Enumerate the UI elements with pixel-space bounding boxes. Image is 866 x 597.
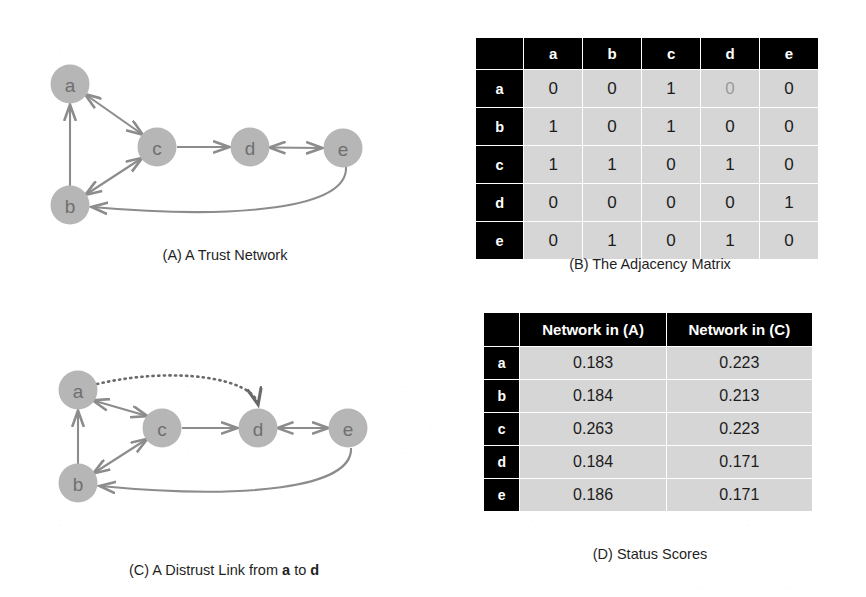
- edge-a-c: [94, 401, 148, 417]
- matrix-cell-e-b: 1: [583, 222, 642, 260]
- scores-corner-cell: [484, 313, 520, 347]
- matrix-row-header-e: e: [476, 222, 524, 260]
- scores-col-header-network-a: Network in (A): [520, 313, 666, 347]
- node-a: a: [51, 65, 90, 104]
- edge-e-to-b: [100, 448, 351, 492]
- matrix-cell-d-c: 0: [642, 184, 701, 222]
- matrix-cell-a-a: 0: [524, 70, 583, 108]
- table-header-row: Network in (A) Network in (C): [484, 313, 813, 347]
- table-row: d 0.184 0.171: [484, 446, 813, 479]
- scores-row-header-b: b: [484, 380, 520, 413]
- caption-distrust-network: (C) A Distrust Link from a to d: [40, 546, 400, 578]
- status-scores-head: Network in (A) Network in (C): [484, 313, 813, 347]
- scores-row-header-d: d: [484, 446, 520, 479]
- table-row: c 1 1 0 1 0: [476, 146, 819, 184]
- scores-row-header-e: e: [484, 479, 520, 512]
- matrix-cell-b-e: 0: [759, 108, 818, 146]
- scores-row-header-c: c: [484, 413, 520, 446]
- matrix-row-header-d: d: [476, 184, 524, 222]
- caption-c-from-node: a: [282, 562, 290, 578]
- scores-row-header-a: a: [484, 347, 520, 380]
- matrix-row-header-b: b: [476, 108, 524, 146]
- matrix-col-header-d: d: [701, 38, 760, 70]
- scores-cell-a-networkC: 0.223: [666, 347, 812, 380]
- scores-cell-c-networkA: 0.263: [520, 413, 666, 446]
- matrix-cell-c-a: 1: [524, 146, 583, 184]
- caption-c-prefix: (C) A Distrust Link from: [129, 562, 282, 578]
- node-b: b: [51, 186, 90, 225]
- edge-b-c: [86, 158, 142, 195]
- scores-cell-d-networkC: 0.171: [666, 446, 812, 479]
- node-c: c: [138, 128, 177, 167]
- caption-c-to-node: d: [310, 562, 319, 578]
- matrix-col-header-c: c: [642, 38, 701, 70]
- edge-a-c: [86, 95, 143, 135]
- scores-cell-d-networkA: 0.184: [520, 446, 666, 479]
- matrix-row-header-a: a: [476, 70, 524, 108]
- matrix-cell-a-e: 0: [759, 70, 818, 108]
- matrix-cell-c-d: 1: [701, 146, 760, 184]
- node-c-label: c: [157, 419, 167, 440]
- scores-cell-b-networkC: 0.213: [666, 380, 812, 413]
- node-c: c: [143, 409, 182, 448]
- table-row: a 0 0 1 0 0: [476, 70, 819, 108]
- matrix-cell-d-e: 1: [759, 184, 818, 222]
- matrix-col-header-e: e: [759, 38, 818, 70]
- scores-cell-c-networkC: 0.223: [666, 413, 812, 446]
- distrust-network-diagram: a b c d e: [0, 340, 430, 530]
- node-b-label: b: [65, 196, 76, 217]
- matrix-cell-a-b: 0: [583, 70, 642, 108]
- matrix-cell-b-b: 0: [583, 108, 642, 146]
- table-row: e 0.186 0.171: [484, 479, 813, 512]
- matrix-cell-a-d: 0: [701, 70, 760, 108]
- matrix-cell-b-d: 0: [701, 108, 760, 146]
- scores-col-header-network-c: Network in (C): [666, 313, 812, 347]
- matrix-cell-c-e: 0: [759, 146, 818, 184]
- edge-a-to-d-distrust: [97, 375, 258, 404]
- status-scores-table: Network in (A) Network in (C) a 0.183 0.…: [483, 312, 813, 512]
- node-b-label: b: [73, 474, 84, 495]
- matrix-cell-e-d: 1: [701, 222, 760, 260]
- scores-cell-a-networkA: 0.183: [520, 347, 666, 380]
- node-e-label: e: [338, 139, 349, 160]
- node-e-label: e: [343, 419, 354, 440]
- adjacency-matrix-body: a 0 0 1 0 0 b 1 0 1 0 0 c 1 1 0 1 0 d 0 …: [476, 70, 819, 260]
- matrix-cell-b-a: 1: [524, 108, 583, 146]
- table-header-row: a b c d e: [476, 38, 819, 70]
- distrust-network-svg: a b c d e: [0, 340, 430, 530]
- matrix-col-header-b: b: [583, 38, 642, 70]
- matrix-corner-cell: [476, 38, 524, 70]
- matrix-cell-d-b: 0: [583, 184, 642, 222]
- matrix-cell-b-c: 1: [642, 108, 701, 146]
- matrix-row-header-c: c: [476, 146, 524, 184]
- scores-cell-e-networkC: 0.171: [666, 479, 812, 512]
- node-d-label: d: [245, 138, 256, 159]
- table-row: a 0.183 0.223: [484, 347, 813, 380]
- table-row: d 0 0 0 0 1: [476, 184, 819, 222]
- edge-b-c: [94, 439, 147, 473]
- adjacency-matrix-head: a b c d e: [476, 38, 819, 70]
- node-e: e: [329, 409, 368, 448]
- matrix-cell-e-e: 0: [759, 222, 818, 260]
- edge-d-e: [270, 148, 322, 149]
- status-scores-body: a 0.183 0.223 b 0.184 0.213 c 0.263 0.22…: [484, 347, 813, 512]
- node-d: d: [239, 409, 278, 448]
- trust-network-diagram: a b c d e: [0, 30, 430, 250]
- matrix-cell-e-c: 0: [642, 222, 701, 260]
- table-row: e 0 1 0 1 0: [476, 222, 819, 260]
- node-a-label: a: [65, 75, 76, 96]
- caption-c-middle: to: [290, 562, 310, 578]
- matrix-cell-d-d: 0: [701, 184, 760, 222]
- node-d: d: [231, 128, 270, 167]
- matrix-cell-c-c: 0: [642, 146, 701, 184]
- caption-trust-network: (A) A Trust Network: [60, 247, 390, 263]
- matrix-cell-c-b: 1: [583, 146, 642, 184]
- caption-status-scores: (D) Status Scores: [480, 546, 820, 562]
- node-a: a: [59, 371, 98, 410]
- matrix-cell-d-a: 0: [524, 184, 583, 222]
- node-e: e: [324, 129, 363, 168]
- matrix-col-header-a: a: [524, 38, 583, 70]
- edge-e-to-b: [92, 167, 346, 212]
- node-d-label: d: [253, 419, 264, 440]
- caption-adjacency-matrix: (B) The Adjacency Matrix: [480, 256, 820, 272]
